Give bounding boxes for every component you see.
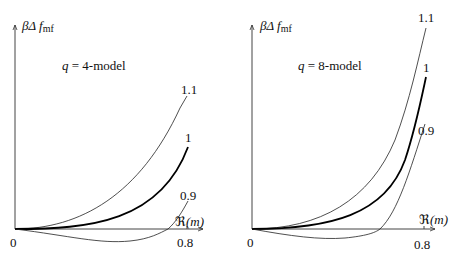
- curve-label-1.1: 1.1: [418, 10, 434, 25]
- y-axis-label: βΔ fmf: [259, 18, 293, 34]
- curve-1: [15, 147, 188, 229]
- curve-label-1: 1: [185, 130, 192, 145]
- chart-right: βΔ fmf q = 8-model ℜ(m) 0 0.8 1.1 1 0.9: [247, 10, 448, 252]
- curve-1: [252, 77, 426, 229]
- x-tick-label-0: 0: [10, 235, 17, 250]
- y-axis-label: βΔ fmf: [21, 18, 55, 34]
- x-axis-label: ℜ(m): [419, 212, 448, 227]
- curve-label-0.9: 0.9: [180, 188, 196, 203]
- chart-title: q = 8-model: [298, 58, 362, 73]
- curve-label-1.1: 1.1: [181, 82, 197, 97]
- x-tick-label-0: 0: [247, 235, 254, 250]
- chart-title: q = 4-model: [62, 58, 126, 73]
- figure: βΔ fmf q = 4-model ℜ(m) 0 0.8 1.1 1 0.9 …: [0, 0, 463, 260]
- x-axis-label: ℜ(m): [175, 214, 204, 229]
- chart-left: βΔ fmf q = 4-model ℜ(m) 0 0.8 1.1 1 0.9: [10, 18, 204, 250]
- x-tick-label-0.8: 0.8: [177, 235, 193, 250]
- curve-label-1: 1: [423, 60, 430, 75]
- curve-0.9: [252, 124, 425, 239]
- curve-label-0.9: 0.9: [418, 123, 434, 138]
- curve-1.1: [15, 96, 187, 229]
- x-tick-label-0.8: 0.8: [414, 237, 430, 252]
